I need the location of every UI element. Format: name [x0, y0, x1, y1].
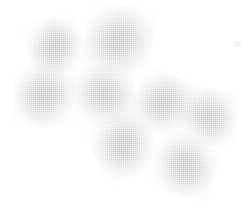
rounded-triangle-shape [157, 138, 213, 193]
shapes-layer [0, 0, 250, 207]
shape-path [137, 76, 190, 130]
rounded-triangle-shape [94, 116, 153, 176]
shape-path [22, 73, 67, 119]
shape-group [22, 12, 231, 193]
rounded-triangle-shape [92, 12, 146, 68]
rounded-triangle-shape [30, 21, 80, 72]
shape-path [94, 116, 153, 176]
rounded-triangle-shape [79, 70, 128, 118]
rounded-triangle-shape [137, 76, 190, 130]
shape-path [79, 70, 128, 118]
image-canvas [0, 0, 250, 207]
rounded-triangle-shape [184, 93, 231, 139]
shape-path [184, 93, 231, 139]
shape-path [92, 12, 146, 68]
rounded-triangle-shape [22, 73, 67, 119]
shape-path [30, 21, 80, 72]
shape-path [157, 138, 213, 193]
